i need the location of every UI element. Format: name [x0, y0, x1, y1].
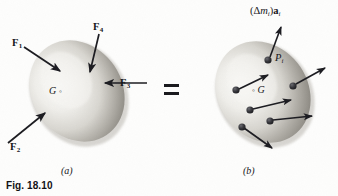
- force-letter: F: [12, 37, 18, 48]
- particle-label-Pi: Pi: [275, 53, 283, 65]
- cg-letter: G: [258, 84, 265, 95]
- cg-letter: G: [49, 85, 56, 96]
- cg-marker-icon: ◦: [252, 86, 255, 95]
- figure-number: Fig. 18.10: [6, 181, 53, 191]
- force-label-F1: F1: [12, 38, 22, 50]
- force-label-F3: F3: [120, 78, 130, 90]
- particle-subscript: i: [281, 57, 283, 65]
- force-letter: F: [10, 141, 16, 152]
- accel-vector-label: (Δmi)ai: [250, 6, 281, 18]
- equals-sign: [164, 84, 179, 95]
- center-of-gravity-label-b: ◦G: [252, 85, 265, 95]
- force-subscript: 3: [127, 82, 131, 90]
- panel-caption-a: (a): [61, 166, 73, 176]
- force-letter: F: [120, 77, 126, 88]
- accel-mass-letter: m: [260, 5, 268, 16]
- equals-bar-top: [164, 84, 179, 87]
- force-letter: F: [93, 21, 99, 32]
- force-subscript: 1: [19, 42, 23, 50]
- equals-bar-bottom: [164, 92, 179, 95]
- force-label-F2: F2: [10, 142, 20, 154]
- center-of-gravity-label-a: G◦: [49, 86, 62, 96]
- force-label-F4: F4: [93, 22, 103, 34]
- force-subscript: 4: [100, 26, 104, 34]
- accel-subscript: i: [279, 10, 281, 18]
- force-subscript: 2: [17, 146, 21, 154]
- panel-caption-b: (b): [243, 166, 255, 176]
- paper-grain-overlay: [0, 0, 338, 196]
- figure-canvas: [0, 0, 338, 196]
- cg-marker-icon: ◦: [59, 87, 62, 96]
- figure-18-10: F1 F2 F3 F4 G◦ (Δmi)ai Pi ◦G (a) (b) Fig…: [0, 0, 338, 196]
